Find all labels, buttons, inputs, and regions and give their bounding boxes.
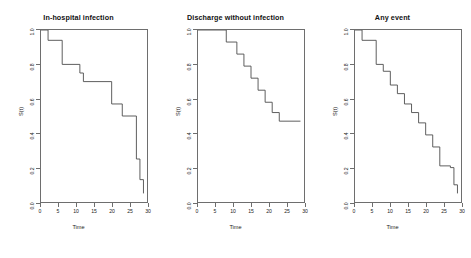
y-axis-tick-label: 1.0 [29, 28, 35, 35]
x-axis-tick [197, 203, 198, 207]
x-axis-tick [426, 203, 427, 207]
x-axis-tick-label: 10 [387, 208, 393, 214]
x-axis-tick [40, 203, 41, 207]
x-axis-tick [372, 203, 373, 207]
x-axis-tick-label: 30 [459, 208, 465, 214]
survival-step-line [198, 30, 300, 121]
x-axis: 051015202530 [40, 203, 148, 211]
x-axis-tick [233, 203, 234, 207]
y-axis-tick-label: 0.8 [186, 63, 192, 70]
x-axis-tick-label: 0 [196, 208, 199, 214]
y-axis: 0.00.20.40.60.81.0 [347, 29, 354, 203]
y-axis: 0.00.20.40.60.81.0 [33, 29, 40, 203]
x-axis-title: Time [0, 224, 157, 230]
y-axis-tick-label: 0.6 [186, 98, 192, 105]
x-axis: 051015202530 [354, 203, 462, 211]
x-axis-tick-label: 25 [284, 208, 290, 214]
x-axis-tick [462, 203, 463, 207]
y-axis-tick-label: 0.8 [343, 63, 349, 70]
x-axis-tick-label: 20 [423, 208, 429, 214]
y-axis-title: S(t) [18, 107, 24, 116]
x-axis-tick-label: 20 [109, 208, 115, 214]
x-axis-tick-label: 25 [127, 208, 133, 214]
y-axis-tick-label: 0.6 [343, 98, 349, 105]
y-axis-tick-label: 0.2 [343, 168, 349, 175]
x-axis-tick [148, 203, 149, 207]
x-axis-tick [251, 203, 252, 207]
x-axis-title: Time [157, 224, 314, 230]
panel-discharge-without-infection: Discharge without infection S(t) 0.00.20… [157, 0, 314, 258]
x-axis-tick-label: 15 [405, 208, 411, 214]
x-axis-tick-label: 30 [145, 208, 151, 214]
panel-any-event: Any event S(t) 0.00.20.40.60.81.0 051015… [314, 0, 471, 258]
panel-in-hospital-infection: In-hospital infection S(t) 0.00.20.40.60… [0, 0, 157, 258]
y-axis-tick-label: 0.4 [186, 133, 192, 140]
y-axis-tick-label: 0.2 [29, 168, 35, 175]
x-axis-tick-label: 5 [57, 208, 60, 214]
x-axis-tick-label: 25 [441, 208, 447, 214]
x-axis-tick [269, 203, 270, 207]
panel-title: Discharge without infection [157, 13, 314, 22]
x-axis-tick [390, 203, 391, 207]
x-axis-tick [305, 203, 306, 207]
x-axis-tick [76, 203, 77, 207]
y-axis-tick-label: 0.2 [186, 168, 192, 175]
x-axis-tick [58, 203, 59, 207]
plot-area [197, 29, 305, 203]
y-axis-tick-label: 1.0 [343, 28, 349, 35]
x-axis-tick [444, 203, 445, 207]
x-axis-tick-label: 15 [248, 208, 254, 214]
survival-step-line [41, 30, 143, 193]
x-axis-tick [215, 203, 216, 207]
y-axis-tick-label: 0.4 [343, 133, 349, 140]
survival-figure: In-hospital infection S(t) 0.00.20.40.60… [0, 0, 471, 258]
y-axis-title: S(t) [175, 107, 181, 116]
y-axis-tick-label: 0.0 [29, 202, 35, 209]
x-axis-tick-label: 15 [91, 208, 97, 214]
step-curve-svg [198, 30, 304, 202]
panel-title: Any event [314, 13, 471, 22]
x-axis-title: Time [314, 224, 471, 230]
y-axis: 0.00.20.40.60.81.0 [190, 29, 197, 203]
x-axis-tick [130, 203, 131, 207]
plot-area [40, 29, 148, 203]
y-axis-tick-label: 1.0 [186, 28, 192, 35]
y-axis-tick-label: 0.6 [29, 98, 35, 105]
x-axis-tick-label: 0 [353, 208, 356, 214]
y-axis-tick-label: 0.0 [343, 202, 349, 209]
x-axis-tick-label: 5 [214, 208, 217, 214]
x-axis-tick [408, 203, 409, 207]
x-axis-tick-label: 10 [73, 208, 79, 214]
y-axis-tick-label: 0.8 [29, 63, 35, 70]
y-axis-tick-label: 0.4 [29, 133, 35, 140]
x-axis-tick [354, 203, 355, 207]
step-curve-svg [355, 30, 461, 202]
y-axis-tick-label: 0.0 [186, 202, 192, 209]
y-axis-title: S(t) [332, 107, 338, 116]
step-curve-svg [41, 30, 147, 202]
survival-step-line [355, 30, 457, 193]
x-axis: 051015202530 [197, 203, 305, 211]
x-axis-tick [112, 203, 113, 207]
x-axis-tick-label: 5 [371, 208, 374, 214]
plot-area [354, 29, 462, 203]
x-axis-tick-label: 10 [230, 208, 236, 214]
panel-title: In-hospital infection [0, 13, 157, 22]
x-axis-tick-label: 0 [39, 208, 42, 214]
x-axis-tick-label: 30 [302, 208, 308, 214]
x-axis-tick [287, 203, 288, 207]
x-axis-tick-label: 20 [266, 208, 272, 214]
x-axis-tick [94, 203, 95, 207]
